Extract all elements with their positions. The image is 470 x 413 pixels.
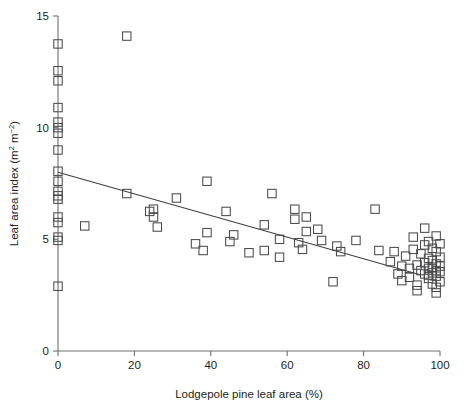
data-point-marker [81,222,89,230]
data-point-marker [222,207,230,215]
data-point-marker [268,189,276,197]
data-point-marker [302,213,310,221]
data-point-marker [123,32,131,40]
data-point-marker [203,228,211,236]
data-point-marker [291,215,299,223]
x-tick-label: 40 [204,359,217,371]
data-point-marker [260,246,268,254]
data-point-marker [432,289,440,297]
data-point-marker [275,253,283,261]
x-tick-label: 0 [55,359,61,371]
data-point-marker [409,233,417,241]
data-point-marker [375,246,383,254]
plot-canvas: 051015020406080100Lodgepole pine leaf ar… [0,0,470,413]
y-tick-label: 10 [36,122,49,134]
data-point-marker [390,247,398,255]
y-tick-label: 15 [36,10,49,22]
x-tick-label: 80 [357,359,370,371]
data-point-marker [413,287,421,295]
data-point-marker [421,224,429,232]
x-tick-label: 100 [430,359,449,371]
x-tick-label: 20 [128,359,141,371]
x-axis-title: Lodgepole pine leaf area (%) [175,388,323,400]
scatter-plot-figure: 051015020406080100Lodgepole pine leaf ar… [0,0,470,413]
data-point-marker [291,205,299,213]
data-point-marker [386,257,394,265]
y-axis-title: Leaf area index (m2 m−2) [7,121,20,247]
y-tick-label: 0 [43,345,49,357]
data-point-marker [203,177,211,185]
x-tick-label: 60 [281,359,294,371]
data-point-marker [317,236,325,244]
data-point-marker [302,227,310,235]
data-point-marker [329,278,337,286]
data-point-marker [314,225,322,233]
data-point-marker [352,236,360,244]
y-tick-label: 5 [43,233,49,245]
data-point-marker [153,223,161,231]
regression-trendline [58,172,421,275]
data-point-marker [371,205,379,213]
data-point-marker [245,249,253,257]
data-point-marker [172,194,180,202]
data-point-marker [413,281,421,289]
data-point-marker [260,221,268,229]
